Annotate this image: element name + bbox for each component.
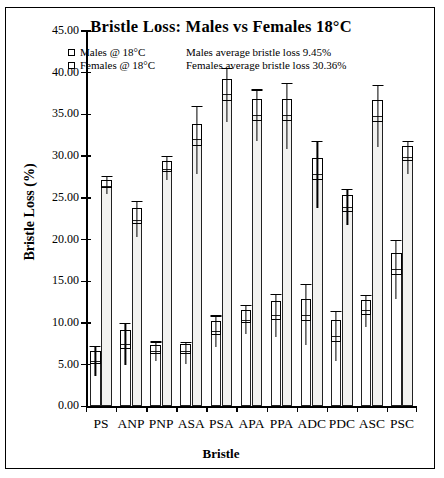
bar-females-ps (101, 186, 112, 406)
mean-box (222, 79, 233, 101)
y-tick-label: 0.00 (19, 398, 79, 413)
mean-box (372, 100, 383, 122)
mean-box (271, 301, 282, 321)
error-bar-cap-top (361, 295, 372, 296)
x-tick (267, 406, 268, 412)
error-bar-cap-top (210, 315, 221, 316)
legend-swatch-males-icon (68, 49, 75, 56)
y-tick-label: 25.00 (19, 190, 79, 205)
y-tick-label: 35.00 (19, 106, 79, 121)
x-tick (327, 406, 328, 412)
mean-box (192, 124, 203, 146)
error-bar-cap-top (331, 311, 342, 312)
bar-females-asc (372, 116, 383, 406)
y-tick (81, 322, 91, 323)
error-bar-cap-top (240, 305, 251, 306)
error-bar-cap-top (101, 176, 112, 177)
y-tick-label: 30.00 (19, 148, 79, 163)
mean-box (101, 180, 112, 188)
mean-box (211, 321, 222, 335)
error-bar-cap-top (270, 294, 281, 295)
error-bar-cap-top (191, 106, 202, 107)
x-tick (206, 406, 207, 412)
error-bar-cap-top (150, 341, 161, 342)
x-tick (387, 406, 388, 412)
y-tick-label: 15.00 (19, 273, 79, 288)
bar-females-psa (222, 94, 233, 406)
mean-box (150, 345, 161, 354)
x-tick (146, 406, 147, 412)
y-tick (81, 114, 91, 115)
bar-females-asa (192, 139, 203, 406)
bar-females-anp (132, 220, 143, 407)
mean-box (241, 310, 252, 323)
x-axis-line (86, 406, 417, 408)
x-tick (176, 406, 177, 412)
error-bar-cap-top (402, 141, 413, 142)
plot-area: 0.005.0010.0015.0020.0025.0030.0035.0040… (86, 30, 417, 408)
mean-box (162, 161, 173, 172)
bar-females-apa (252, 115, 263, 406)
y-tick (81, 30, 91, 31)
error-bar-cap-top (282, 83, 293, 84)
x-tick (236, 406, 237, 412)
x-tick (86, 406, 87, 412)
y-tick-label: 20.00 (19, 232, 79, 247)
mean-box (342, 195, 353, 211)
bar-females-pnp (162, 169, 173, 407)
mean-box (301, 299, 312, 321)
y-axis-line (86, 30, 88, 408)
bar-females-psc (402, 157, 413, 406)
mean-box (312, 158, 323, 180)
mean-box (132, 208, 143, 224)
error-bar-cap-top (312, 141, 323, 142)
error-bar-cap-top (131, 201, 142, 202)
x-tick (357, 406, 358, 412)
y-tick-label: 45.00 (19, 23, 79, 38)
mean-box (402, 146, 413, 161)
mean-box (391, 253, 402, 275)
bar-females-ppa (282, 115, 293, 406)
mean-box (90, 351, 101, 365)
y-tick (81, 281, 91, 282)
y-tick (81, 155, 91, 156)
bar-females-pdc (342, 207, 353, 406)
error-bar-cap-top (252, 89, 263, 90)
x-tick (116, 406, 117, 412)
error-bar-cap-top (222, 68, 233, 69)
x-tick (416, 406, 417, 412)
mean-box (331, 320, 342, 342)
error-bar-cap-top (372, 85, 383, 86)
error-bar-cap-top (301, 284, 312, 285)
x-tick-label: PSC (377, 416, 427, 432)
error-bar-cap-top (90, 346, 101, 347)
error-bar-cap-top (161, 156, 172, 157)
mean-box (180, 344, 191, 354)
mean-box (120, 330, 131, 349)
x-tick (297, 406, 298, 412)
error-bar-cap-top (391, 240, 402, 241)
x-axis-label: Bristle (6, 446, 436, 462)
y-tick (81, 197, 91, 198)
mean-box (361, 300, 372, 315)
y-tick (81, 239, 91, 240)
error-bar-cap-top (120, 323, 131, 324)
y-tick-label: 10.00 (19, 315, 79, 330)
mean-box (282, 99, 293, 121)
y-tick-label: 5.00 (19, 357, 79, 372)
error-bar-cap-top (180, 342, 191, 343)
y-tick (81, 72, 91, 73)
chart-frame: Bristle Loss: Males vs Females 18°C Male… (5, 7, 435, 469)
mean-box (252, 99, 263, 121)
y-tick-label: 40.00 (19, 65, 79, 80)
error-bar-cap-top (342, 189, 353, 190)
bar-females-adc (312, 174, 323, 407)
